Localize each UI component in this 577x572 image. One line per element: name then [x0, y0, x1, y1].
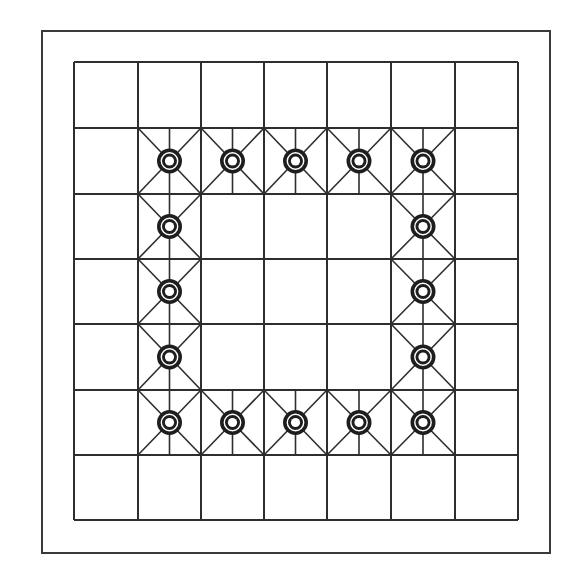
- ring-icon: [283, 410, 308, 435]
- board-cell-r6-c3[interactable]: [264, 455, 327, 520]
- ring-icon: [411, 410, 436, 435]
- board-cell-r3-c2[interactable]: [201, 259, 264, 324]
- ring-icon: [157, 279, 182, 304]
- ring-icon: [157, 345, 182, 370]
- ring-icon: [157, 410, 182, 435]
- board-cell-r6-c5[interactable]: [391, 455, 455, 520]
- ring-icon: [411, 214, 436, 239]
- board-cell-r6-c1[interactable]: [138, 455, 201, 520]
- board-cell-r3-c6[interactable]: [455, 259, 518, 324]
- board-cell-r2-c2[interactable]: [201, 194, 264, 259]
- ring-icon: [220, 149, 245, 174]
- ring-icon: [411, 345, 436, 370]
- board-cell-r5-c0[interactable]: [74, 390, 138, 455]
- board-cell-r3-c4[interactable]: [327, 259, 391, 324]
- board-cell-r6-c4[interactable]: [327, 455, 391, 520]
- board-cell-r0-c5[interactable]: [391, 62, 455, 128]
- board-cell-r0-c1[interactable]: [138, 62, 201, 128]
- board-cell-r4-c2[interactable]: [201, 324, 264, 390]
- ring-icon: [347, 410, 372, 435]
- board-cell-r3-c3[interactable]: [264, 259, 327, 324]
- board-cell-r0-c3[interactable]: [264, 62, 327, 128]
- board-cell-r4-c0[interactable]: [74, 324, 138, 390]
- ring-icon: [157, 214, 182, 239]
- board-cell-r2-c0[interactable]: [74, 194, 138, 259]
- ring-icon: [220, 410, 245, 435]
- board-cell-r5-c6[interactable]: [455, 390, 518, 455]
- board-cell-r3-c0[interactable]: [74, 259, 138, 324]
- ring-icon: [347, 149, 372, 174]
- board-cell-r0-c2[interactable]: [201, 62, 264, 128]
- ring-icon: [283, 149, 308, 174]
- board-cell-r0-c4[interactable]: [327, 62, 391, 128]
- board-cell-r0-c0[interactable]: [74, 62, 138, 128]
- board-cell-r2-c3[interactable]: [264, 194, 327, 259]
- ring-icon: [411, 149, 436, 174]
- board-cell-r4-c3[interactable]: [264, 324, 327, 390]
- board-cell-r4-c6[interactable]: [455, 324, 518, 390]
- board-cell-r1-c0[interactable]: [74, 128, 138, 194]
- board-cell-r6-c6[interactable]: [455, 455, 518, 520]
- board-cell-r4-c4[interactable]: [327, 324, 391, 390]
- board-cell-r1-c6[interactable]: [455, 128, 518, 194]
- ring-icon: [411, 279, 436, 304]
- board-canvas: [0, 0, 577, 572]
- board-cell-r6-c0[interactable]: [74, 455, 138, 520]
- board-cell-r2-c4[interactable]: [327, 194, 391, 259]
- board-cell-r6-c2[interactable]: [201, 455, 264, 520]
- board-cell-r0-c6[interactable]: [455, 62, 518, 128]
- board-cell-r2-c6[interactable]: [455, 194, 518, 259]
- ring-icon: [157, 149, 182, 174]
